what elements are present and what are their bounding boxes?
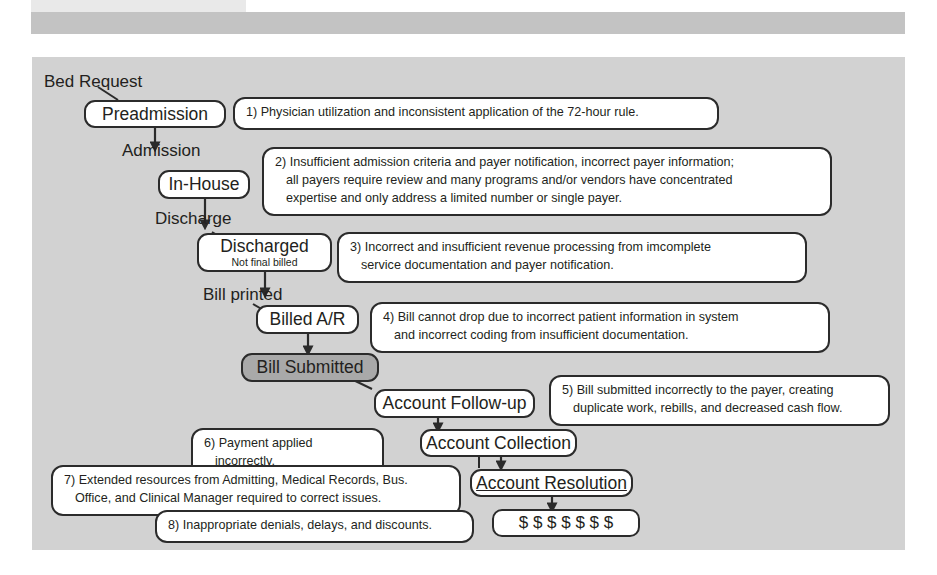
process-box-account-resolution[interactable]: Account Resolution: [470, 469, 633, 497]
note-8[interactable]: 8) Inappropriate denials, delays, and di…: [155, 510, 474, 543]
process-box-title: Preadmission: [102, 105, 208, 123]
note-line: expertise and only address a limited num…: [275, 190, 819, 208]
process-box-in-house[interactable]: In-House: [158, 170, 250, 199]
process-box-account-follow-up[interactable]: Account Follow-up: [374, 389, 535, 418]
note-line: 7) Extended resources from Admitting, Me…: [64, 472, 448, 490]
note-line: 5) Bill submitted incorrectly to the pay…: [562, 382, 877, 400]
process-box-title: Account Resolution: [476, 474, 627, 492]
note-line: and incorrect coding from insufficient d…: [383, 327, 817, 345]
note-line: 1) Physician utilization and inconsisten…: [246, 104, 706, 122]
process-box-title: Discharged: [220, 237, 309, 255]
process-box-title: Account Collection: [426, 434, 571, 452]
note-line: 2) Insufficient admission criteria and p…: [275, 154, 819, 172]
note-4[interactable]: 4) Bill cannot drop due to incorrect pat…: [370, 302, 830, 353]
process-box-title: Billed A/R: [270, 310, 346, 328]
process-box-title: In-House: [168, 175, 239, 193]
stage-label-discharge: Discharge: [155, 209, 232, 229]
note-line: all payers require review and many progr…: [275, 172, 819, 190]
note-line: 4) Bill cannot drop due to incorrect pat…: [383, 309, 817, 327]
process-box-account-collection[interactable]: Account Collection: [420, 429, 577, 457]
note-line: 3) Incorrect and insufficient revenue pr…: [350, 239, 794, 257]
note-line: 8) Inappropriate denials, delays, and di…: [168, 517, 461, 535]
process-box-billed-ar[interactable]: Billed A/R: [256, 305, 359, 334]
note-1[interactable]: 1) Physician utilization and inconsisten…: [233, 97, 719, 130]
cash-box-symbols: $ $ $ $ $ $ $: [519, 513, 614, 533]
process-box-bill-submitted[interactable]: Bill Submitted: [241, 353, 379, 382]
note-line: service documentation and payer notifica…: [350, 257, 794, 275]
process-box-title: Account Follow-up: [383, 394, 527, 412]
cash-box[interactable]: $ $ $ $ $ $ $: [492, 509, 640, 537]
diagram-canvas: Bed Request Admission Discharge Bill pri…: [0, 0, 937, 575]
note-5[interactable]: 5) Bill submitted incorrectly to the pay…: [549, 375, 890, 426]
process-box-subtitle: Not final billed: [232, 257, 298, 268]
process-box-preadmission[interactable]: Preadmission: [84, 100, 226, 128]
note-line: duplicate work, rebills, and decreased c…: [562, 400, 877, 418]
note-3[interactable]: 3) Incorrect and insufficient revenue pr…: [337, 232, 807, 283]
process-box-discharged[interactable]: Discharged Not final billed: [197, 233, 332, 272]
process-box-title: Bill Submitted: [257, 358, 364, 376]
note-7[interactable]: 7) Extended resources from Admitting, Me…: [51, 465, 461, 516]
note-2[interactable]: 2) Insufficient admission criteria and p…: [262, 147, 832, 216]
stage-label-admission: Admission: [122, 141, 200, 161]
stage-label-bed-request: Bed Request: [44, 72, 142, 92]
note-line: Office, and Clinical Manager required to…: [64, 490, 448, 508]
header-bar: [31, 12, 905, 34]
stage-label-bill-printed: Bill printed: [203, 285, 282, 305]
